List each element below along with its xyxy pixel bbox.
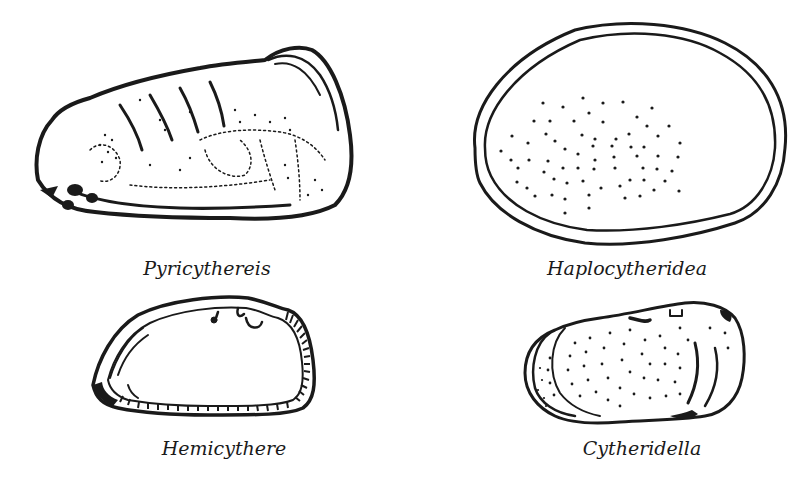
pyricythereis-illustration [30,40,360,230]
hemicythere-illustration [88,290,328,430]
label-haplocytheridea: Haplocytheridea [547,257,707,279]
label-cytheridella: Cytheridella [583,437,701,459]
label-pyricythereis: Pyricythereis [143,257,270,279]
haplocytheridea-illustration [465,18,795,248]
cytheridella-illustration [520,298,755,433]
label-hemicythere: Hemicythere [162,437,287,459]
